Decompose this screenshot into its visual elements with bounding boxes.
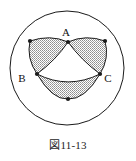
- dot-mid-right: [98, 72, 102, 76]
- dot-upper-left: [28, 39, 32, 43]
- dot-bottom-center: [66, 97, 70, 101]
- dot-top-center: [66, 40, 70, 44]
- geometry-diagram: ABC: [0, 0, 136, 136]
- dot-mid-left: [35, 72, 39, 76]
- vertex-label-a: A: [62, 26, 70, 38]
- dot-upper-right: [103, 39, 107, 43]
- figure-caption: 図11-13: [0, 138, 136, 152]
- figure-container: ABC 図11-13: [0, 0, 136, 161]
- vertex-label-b: B: [18, 72, 25, 84]
- vertex-label-c: C: [104, 72, 111, 84]
